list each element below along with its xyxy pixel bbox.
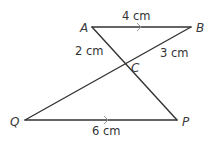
point-label-p: P: [182, 115, 190, 129]
length-label-ac: 2 cm: [75, 44, 104, 58]
point-label-a: A: [79, 21, 88, 35]
segment-bq: [25, 27, 191, 120]
geometry-diagram: A B C Q P 4 cm 2 cm 3 cm 6 cm: [0, 0, 208, 142]
point-label-q: Q: [10, 115, 19, 129]
length-label-ab: 4 cm: [122, 9, 151, 23]
point-label-c: C: [131, 61, 140, 75]
length-label-bc: 3 cm: [160, 46, 189, 60]
point-label-b: B: [196, 21, 204, 35]
length-label-qp: 6 cm: [92, 124, 121, 138]
